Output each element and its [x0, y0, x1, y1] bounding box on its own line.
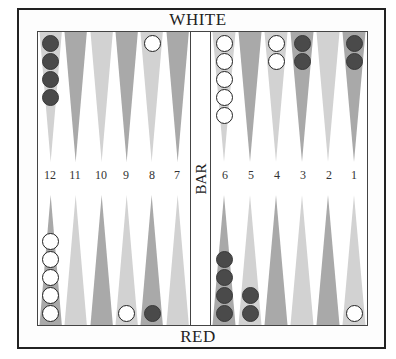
- white-checker[interactable]: [216, 89, 233, 106]
- bar-label: BAR: [192, 163, 209, 194]
- red-checker[interactable]: [346, 53, 363, 70]
- red-checker[interactable]: [216, 251, 233, 268]
- point-2[interactable]: [315, 32, 341, 162]
- point-number: 12: [37, 168, 63, 183]
- white-checker[interactable]: [268, 35, 285, 52]
- red-checker[interactable]: [242, 287, 259, 304]
- point-number: 9: [113, 168, 139, 183]
- point-bottom-10[interactable]: [289, 195, 315, 325]
- bar[interactable]: BAR: [191, 31, 210, 326]
- point-number: 5: [238, 168, 264, 183]
- point-10[interactable]: [89, 32, 114, 162]
- white-player-label: WHITE: [0, 10, 396, 30]
- point-bottom-9[interactable]: [263, 195, 289, 325]
- red-checker[interactable]: [346, 35, 363, 52]
- point-number: 6: [212, 168, 238, 183]
- point-number: 11: [62, 168, 88, 183]
- white-checker[interactable]: [144, 35, 161, 52]
- point-number: 4: [264, 168, 290, 183]
- point-number: 8: [139, 168, 165, 183]
- red-checker[interactable]: [294, 53, 311, 70]
- point-bottom-3[interactable]: [89, 195, 114, 325]
- point-number: 2: [316, 168, 342, 183]
- white-checker[interactable]: [216, 71, 233, 88]
- point-number: 7: [164, 168, 190, 183]
- red-checker[interactable]: [216, 287, 233, 304]
- red-checker[interactable]: [216, 305, 233, 322]
- point-number: 1: [341, 168, 367, 183]
- white-checker[interactable]: [346, 305, 363, 322]
- point-11[interactable]: [63, 32, 88, 162]
- white-checker[interactable]: [216, 35, 233, 52]
- white-checker[interactable]: [268, 53, 285, 70]
- point-number: 10: [88, 168, 114, 183]
- point-number: 3: [290, 168, 316, 183]
- white-checker[interactable]: [216, 107, 233, 124]
- point-bottom-2[interactable]: [63, 195, 88, 325]
- point-bottom-6[interactable]: [165, 195, 190, 325]
- red-checker[interactable]: [294, 35, 311, 52]
- point-7[interactable]: [165, 32, 190, 162]
- red-player-label: RED: [0, 327, 396, 347]
- red-checker[interactable]: [144, 305, 161, 322]
- point-bottom-11[interactable]: [315, 195, 341, 325]
- red-checker[interactable]: [242, 305, 259, 322]
- red-checker[interactable]: [216, 269, 233, 286]
- point-5[interactable]: [237, 32, 263, 162]
- white-checker[interactable]: [216, 53, 233, 70]
- point-9[interactable]: [114, 32, 139, 162]
